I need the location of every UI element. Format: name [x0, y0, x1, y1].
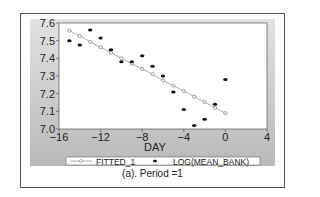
observed-point [67, 39, 71, 42]
x-tick-label: −12 [91, 131, 110, 143]
observed-point [88, 29, 92, 32]
y-tick-label: 7.6 [40, 17, 55, 29]
observed-point [223, 78, 227, 81]
observed-point [109, 48, 113, 51]
figure-caption: (a). Period =1 [20, 168, 285, 179]
x-axis-label: DAY [144, 141, 166, 153]
legend-fitted-marker-icon [80, 160, 83, 163]
fitted-point [193, 95, 196, 98]
fitted-point [213, 106, 216, 109]
observed-point [150, 65, 154, 68]
x-tick-label: −16 [50, 131, 69, 143]
observed-point [119, 60, 123, 63]
y-tick-label: 7.5 [40, 35, 55, 47]
x-tick-label: 0 [222, 131, 228, 143]
fitted-point [141, 67, 144, 70]
fitted-point [161, 79, 164, 82]
y-tick-label: 7.2 [40, 88, 55, 100]
observed-point [98, 37, 102, 40]
observed-point [140, 54, 144, 57]
fitted-point [99, 46, 102, 49]
x-tick-label: 4 [264, 131, 270, 143]
observed-point [78, 43, 82, 46]
x-tick-label: −4 [178, 131, 191, 143]
legend-label-fitted: FITTED_1 [96, 157, 135, 167]
y-tick-label: 7.1 [40, 105, 55, 117]
fitted-point [120, 57, 123, 60]
y-tick-label: 7.4 [40, 52, 55, 64]
legend-label-observed: LOG(MEAN_BANK) [173, 157, 249, 167]
observed-point [182, 108, 186, 111]
observed-point [213, 103, 217, 106]
observed-point [171, 90, 175, 93]
fitted-point [78, 34, 81, 37]
observed-point [202, 118, 206, 121]
fitted-point [224, 112, 227, 115]
fitted-point [182, 89, 185, 92]
legend-observed-marker-icon [153, 160, 157, 163]
fitted-point [89, 40, 92, 43]
fitted-point [109, 51, 112, 54]
fitted-point [172, 84, 175, 87]
fitted-point [151, 73, 154, 76]
observed-point [161, 75, 165, 78]
observed-point [192, 124, 196, 127]
observed-point [130, 60, 134, 63]
fitted-point [68, 29, 71, 32]
fitted-point [203, 100, 206, 103]
y-tick-label: 7.3 [40, 70, 55, 82]
